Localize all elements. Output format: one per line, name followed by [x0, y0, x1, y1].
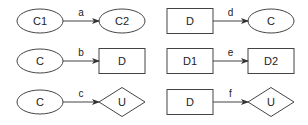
- pattern-b: CDb: [17, 47, 145, 74]
- edge-label: a: [78, 7, 84, 18]
- pattern-a: C1C2a: [17, 7, 145, 33]
- pattern-d: DCd: [167, 7, 294, 34]
- target-node-label: C2: [115, 15, 129, 27]
- pattern-f: DUf: [167, 88, 294, 117]
- target-node-label: D2: [264, 55, 278, 67]
- target-node-label: U: [267, 96, 275, 108]
- target-node-label: C: [267, 15, 275, 27]
- edge-label: b: [78, 47, 84, 58]
- source-node-label: C: [36, 55, 44, 67]
- source-node-label: C: [36, 96, 44, 108]
- target-node-label: D: [118, 55, 126, 67]
- edge-label: d: [228, 7, 234, 18]
- edge-label: f: [229, 88, 232, 99]
- relationship-diagram: C1C2aCDbCUcDCdD1D2eDUf: [0, 0, 308, 125]
- source-node-label: D: [186, 15, 194, 27]
- edge-label: c: [79, 88, 84, 99]
- source-node-label: C1: [33, 15, 47, 27]
- source-node-label: D1: [183, 55, 197, 67]
- source-node-label: D: [186, 96, 194, 108]
- target-node-label: U: [118, 96, 126, 108]
- pattern-e: D1D2e: [167, 47, 294, 74]
- edge-label: e: [228, 47, 234, 58]
- pattern-c: CUc: [17, 88, 145, 117]
